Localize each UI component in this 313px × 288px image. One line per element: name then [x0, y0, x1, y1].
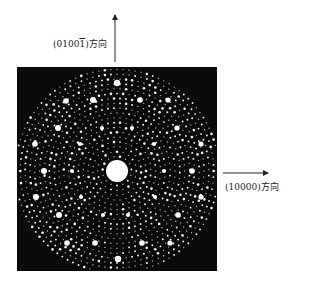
horizontal-axis-label: (10000)方向 [225, 180, 279, 193]
diffraction-figure [0, 0, 313, 288]
vertical-label-part-3: )方向 [85, 39, 107, 49]
central-beam-spot [106, 160, 128, 182]
vertical-axis-label: (01001)方向 [53, 37, 107, 50]
vertical-label-part-1: (0100 [53, 39, 79, 49]
